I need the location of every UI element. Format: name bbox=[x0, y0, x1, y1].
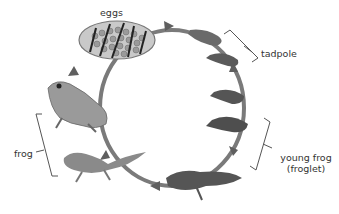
froglet-bracket bbox=[250, 118, 270, 170]
arrowhead-icon bbox=[100, 150, 110, 160]
young-frog-label: young frog (froglet) bbox=[273, 152, 339, 174]
arrowhead-icon bbox=[68, 66, 79, 76]
froglet-illustration bbox=[166, 171, 242, 200]
eggs-illustration bbox=[79, 21, 155, 59]
tadpole-label: tadpole bbox=[261, 48, 297, 59]
frog-label: frog bbox=[14, 148, 33, 159]
froglet-label-text: (froglet) bbox=[273, 163, 339, 174]
eggs-label: eggs bbox=[100, 7, 123, 18]
life-cycle-diagram bbox=[0, 0, 339, 214]
frog-bracket bbox=[36, 114, 58, 176]
adult-frog-illustration bbox=[48, 82, 107, 132]
young-frog-label-text: young frog bbox=[273, 152, 339, 163]
